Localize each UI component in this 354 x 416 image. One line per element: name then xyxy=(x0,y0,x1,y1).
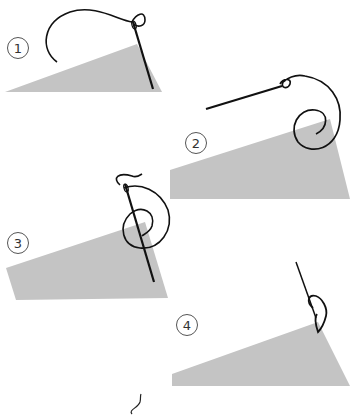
fabric-swatch-4 xyxy=(172,322,350,386)
thread-4-taut xyxy=(296,262,316,318)
fabric-swatch-2 xyxy=(170,119,350,199)
step-4-label: 4 xyxy=(176,314,198,336)
needle-2 xyxy=(206,86,282,109)
step-3-label: 3 xyxy=(7,232,29,254)
fabric-swatch-3 xyxy=(6,222,168,300)
step-2-label: 2 xyxy=(185,132,207,154)
step-1-label: 1 xyxy=(7,37,29,59)
stitch-diagram xyxy=(0,0,354,416)
step-3-illustration xyxy=(6,174,169,300)
step-4-illustration xyxy=(172,262,350,386)
fabric-swatch-1 xyxy=(5,44,162,92)
thread-tail-bottom xyxy=(131,394,141,414)
